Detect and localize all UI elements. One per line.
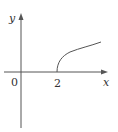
x-axis <box>4 70 108 75</box>
x-axis-arrow-icon <box>101 70 108 75</box>
origin-label: 0 <box>11 77 18 88</box>
sqrt-curve <box>57 42 101 72</box>
y-axis-arrow-icon <box>19 13 24 20</box>
x-tick-label-2: 2 <box>54 78 61 89</box>
x-axis-label: x <box>103 77 109 88</box>
y-axis-label: y <box>9 13 15 24</box>
y-axis <box>19 13 24 128</box>
graph-canvas <box>0 0 118 132</box>
